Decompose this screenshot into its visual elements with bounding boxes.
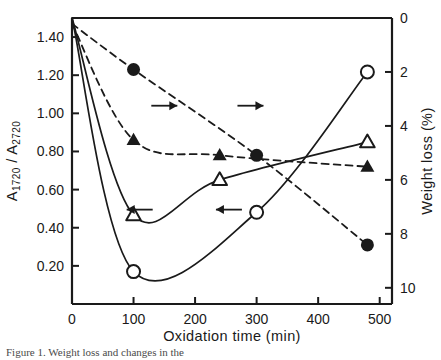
bottom-tick-label: 200 <box>183 311 207 327</box>
left-tick-label: 1.20 <box>37 67 64 83</box>
left-tick-label: 0.60 <box>37 182 64 198</box>
bottom-tick-label: 300 <box>245 311 269 327</box>
right-tick-label: 10 <box>400 280 416 296</box>
left-axis-tick-labels: 0.200.400.600.801.001.201.40 <box>37 29 64 274</box>
bottom-tick-label: 0 <box>68 311 76 327</box>
y-axis-label: A1720 / A2720 <box>4 121 22 201</box>
left-tick-label: 1.00 <box>37 105 64 121</box>
open-triangle-weight-loss-point <box>360 135 375 148</box>
filled-triangle-absorbance-ratio-line <box>72 24 367 167</box>
bottom-axis-tick-labels: 0100200300400500 <box>68 311 391 327</box>
arrow-left-lower-right <box>216 205 242 214</box>
bottom-tick-label: 100 <box>122 311 146 327</box>
oxidation-time-chart: 0.200.400.600.801.001.201.40 0246810 010… <box>0 0 441 346</box>
right-tick-label: 6 <box>400 172 408 188</box>
filled-circle-absorbance-ratio-point <box>361 238 374 251</box>
axis-frame <box>72 18 392 304</box>
right-tick-label: 8 <box>400 226 408 242</box>
left-tick-label: 0.40 <box>37 220 64 236</box>
right-tick-label: 4 <box>400 118 408 134</box>
right-axis-tick-labels: 0246810 <box>400 10 416 296</box>
left-tick-label: 0.20 <box>37 258 64 274</box>
arrow-right-upper-right <box>237 101 263 110</box>
filled-circle-absorbance-ratio-point <box>127 63 140 76</box>
x-axis-label: Oxidation time (min) <box>163 328 301 344</box>
open-triangle-weight-loss-line <box>72 18 367 223</box>
left-tick-label: 0.80 <box>37 143 64 159</box>
open-circle-weight-loss-point <box>361 65 374 78</box>
right-tick-label: 2 <box>400 64 408 80</box>
bottom-tick-label: 400 <box>306 311 330 327</box>
bottom-tick-label: 500 <box>368 311 392 327</box>
y2-axis-label: Weight loss (%) <box>419 107 435 214</box>
filled-circle-absorbance-ratio-point <box>250 149 263 162</box>
right-tick-label: 0 <box>400 10 408 26</box>
svg-text:A1720 / A2720: A1720 / A2720 <box>4 121 22 201</box>
left-tick-label: 1.40 <box>37 29 64 45</box>
svg-text:Weight loss (%): Weight loss (%) <box>419 107 435 214</box>
arrow-right-upper-left <box>151 101 177 110</box>
figure-caption: Figure 1. Weight loss and changes in the <box>6 346 436 359</box>
open-circle-weight-loss-point <box>127 265 140 278</box>
open-circle-weight-loss-point <box>250 206 263 219</box>
figure-container: 0.200.400.600.801.001.201.40 0246810 010… <box>0 0 441 360</box>
